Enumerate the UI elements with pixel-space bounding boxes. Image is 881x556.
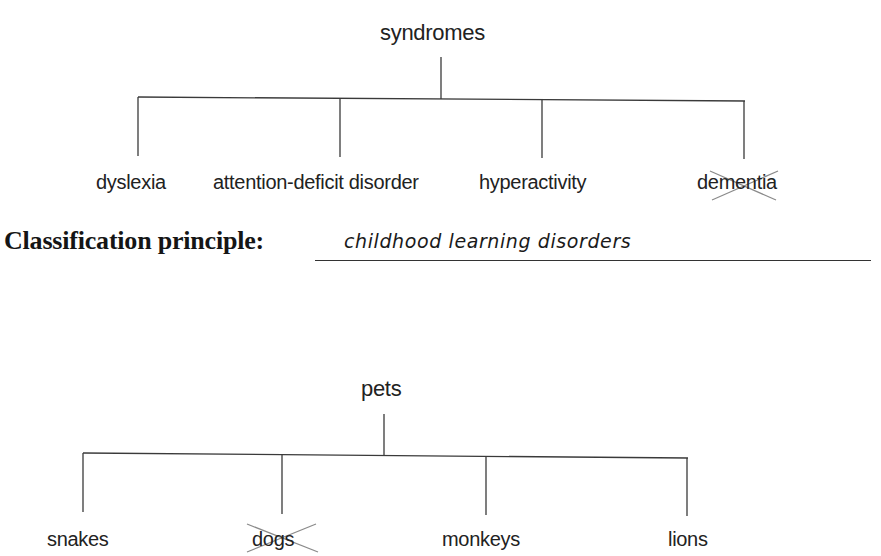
tree-child-label: attention-deficit disorder: [213, 172, 419, 192]
tree-child-label-crossed-out: dementia: [697, 172, 777, 192]
tree-child-label: dyslexia: [96, 172, 166, 192]
tree-child-label-crossed-out: dogs: [252, 529, 294, 549]
tree-child-label: monkeys: [442, 529, 520, 549]
tree-child-label: hyperactivity: [479, 172, 586, 192]
tree-root-label: syndromes: [380, 22, 485, 44]
classification-principle-answer[interactable]: childhood learning disorders: [344, 232, 631, 251]
tree-child-label: lions: [668, 529, 708, 549]
pets-tree-connectors: [83, 414, 688, 516]
tree-connector-lines: [0, 0, 881, 556]
classification-principle-label: Classification principle:: [4, 228, 264, 254]
tree-child-label: snakes: [47, 529, 109, 549]
answer-underline: [315, 260, 871, 261]
syndromes-tree-connectors: [138, 57, 745, 159]
tree-root-label: pets: [361, 378, 401, 400]
